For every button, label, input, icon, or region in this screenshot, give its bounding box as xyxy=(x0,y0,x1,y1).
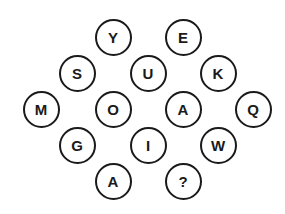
letter-circle: U xyxy=(130,55,167,92)
circle-letter: Y xyxy=(108,30,118,45)
letter-circle: Q xyxy=(235,91,272,128)
letter-circle: I xyxy=(130,127,167,164)
circle-letter: G xyxy=(71,138,83,153)
missing-letter-circle: ? xyxy=(165,163,202,200)
circle-letter: A xyxy=(178,102,189,117)
circle-letter: O xyxy=(107,102,119,117)
letter-circle: E xyxy=(165,19,202,56)
letter-circle: O xyxy=(95,91,132,128)
circle-letter: S xyxy=(72,66,82,81)
letter-circle: G xyxy=(59,127,96,164)
circle-letter: A xyxy=(108,174,119,189)
circle-letter: I xyxy=(146,138,150,153)
circle-letter: M xyxy=(35,102,48,117)
letter-circle: S xyxy=(59,55,96,92)
circle-letter: U xyxy=(143,66,154,81)
letter-circle: W xyxy=(200,127,237,164)
letter-circle: A xyxy=(95,163,132,200)
letter-circle: Y xyxy=(95,19,132,56)
letter-circle: K xyxy=(200,55,237,92)
letter-circle: A xyxy=(165,91,202,128)
letter-circle: M xyxy=(23,91,60,128)
circle-letter: K xyxy=(213,66,224,81)
circle-letter: W xyxy=(211,138,225,153)
circle-letter: ? xyxy=(178,174,187,189)
circle-letter: Q xyxy=(247,102,259,117)
circle-letter: E xyxy=(178,30,188,45)
